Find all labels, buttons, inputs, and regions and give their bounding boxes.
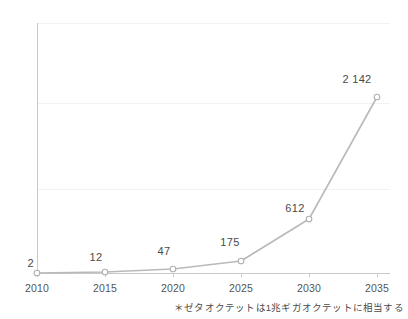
series-line [37,97,377,273]
data-label-2015: 12 [90,252,103,263]
data-point-2035[interactable] [374,94,380,100]
x-axis-label-2015: 2015 [93,283,117,294]
data-point-2010[interactable] [34,270,40,276]
data-label-2010: 2 [28,258,34,269]
x-axis-label-2035: 2035 [365,283,389,294]
data-point-2025[interactable] [238,258,244,264]
x-axis-label-2030: 2030 [297,283,321,294]
data-label-2030: 612 [285,203,304,214]
x-axis-label-2025: 2025 [229,283,253,294]
chart-footnote: ＊ゼタオクテットは1兆ギガオクテットに相当する [174,303,404,313]
line-chart: 2 12 47 175 612 2 142 2010 2015 2020 202… [0,0,408,319]
x-axis-label-2020: 2020 [161,283,185,294]
data-label-2020: 47 [158,246,171,257]
data-label-2025: 175 [220,237,239,248]
data-label-2035: 2 142 [342,74,371,85]
data-point-2015[interactable] [102,269,108,275]
chart-plot-area [0,0,408,319]
data-point-2020[interactable] [170,266,176,272]
data-point-2030[interactable] [306,216,312,222]
x-axis-label-2010: 2010 [25,283,49,294]
